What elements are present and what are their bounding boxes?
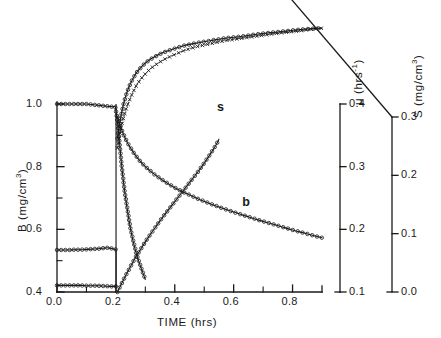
mu-axis-tick-label: 0.4 <box>349 97 365 109</box>
series <box>55 284 117 289</box>
curve-label-s: s <box>217 100 224 114</box>
series <box>116 115 324 240</box>
x-axis-tick-label: 0.2 <box>105 295 121 307</box>
x-axis-tick-label: 0.8 <box>282 295 298 307</box>
series <box>116 27 323 150</box>
mu-axis-tick-label: 0.2 <box>349 222 365 234</box>
series <box>55 246 117 252</box>
s-axis-title: S (mg/cm3) <box>410 55 424 119</box>
left-axis-tick-label: 0.4 <box>26 285 42 297</box>
left-axis-tick-label: 0.6 <box>26 222 42 234</box>
chart-canvas <box>0 0 441 338</box>
series <box>55 102 146 279</box>
data-series-layer <box>55 27 323 294</box>
left-axis-tick-label: 0.8 <box>26 160 42 172</box>
x-axis-tick-label: 0.6 <box>223 295 239 307</box>
x-axis-tick-label: 0.0 <box>46 295 62 307</box>
s-axis-tick-label: 0.0 <box>401 285 417 297</box>
s-axis-tick-label: 0.2 <box>401 168 417 180</box>
curve-label-b: b <box>242 195 250 209</box>
s-axis-tick-label: 0.3 <box>401 110 417 122</box>
mu-axis-tick-label: 0.3 <box>349 160 365 172</box>
figure-root: B (mg/cm3) 1.0 0.8 0.6 0.4 TIME (hrs) 0.… <box>0 0 441 338</box>
series <box>116 139 219 294</box>
s-axis-tick-label: 0.1 <box>401 227 417 239</box>
left-axis-tick-label: 1.0 <box>26 97 42 109</box>
x-axis-tick-label: 0.4 <box>164 295 180 307</box>
x-axis-title: TIME (hrs) <box>157 316 217 328</box>
mu-axis-tick-label: 0.1 <box>349 285 365 297</box>
